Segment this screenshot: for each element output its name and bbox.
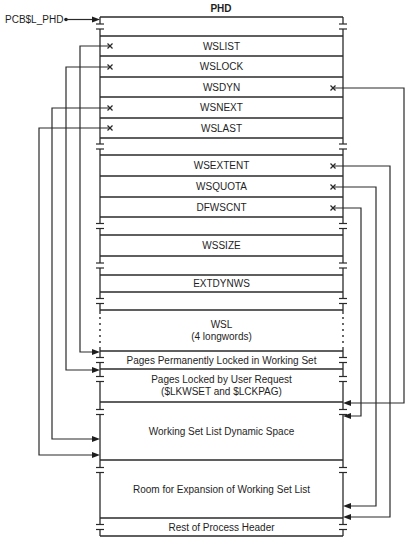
pcb-phd-label: PCB$L_PHD (5, 14, 63, 25)
phd-diagram: PHD PCB$L_PHD WSLISTWSLOCKWSDYNWSNEXTWSL… (0, 0, 410, 544)
arrowhead-icon (92, 349, 100, 355)
field-label: WSLAST (201, 123, 242, 134)
arrowhead-icon (343, 503, 351, 509)
field-wslast: WSLAST (100, 123, 343, 139)
arrowhead-icon (343, 400, 351, 406)
continuation-dot-icon (99, 335, 101, 337)
field-label: Working Set List Dynamic Space (149, 426, 295, 437)
field-label: WSL (211, 319, 233, 330)
continuation-dot-icon (99, 317, 101, 319)
field-wslist: WSLIST (100, 41, 343, 57)
field-perm-locked: Pages Permanently Locked in Working Set (100, 355, 343, 370)
arrowhead-icon (92, 367, 100, 373)
phd-diagram-canvas: PHD PCB$L_PHD WSLISTWSLOCKWSDYNWSNEXTWSL… (0, 0, 410, 544)
field-extdynws: EXTDYNWS (100, 278, 343, 292)
field-label: DFWSCNT (197, 202, 247, 213)
continuation-dot-icon (342, 323, 344, 325)
continuation-dot-icon (342, 341, 344, 343)
phd-frame (96, 17, 347, 536)
field-label: (4 longwords) (191, 331, 252, 342)
field-label: Room for Expansion of Working Set List (133, 484, 310, 495)
arrowhead-icon (92, 436, 100, 442)
field-label: WSLIST (203, 41, 240, 52)
field-rest-header: Rest of Process Header (100, 522, 343, 537)
field-label: ($LKWSET and $LCKPAG) (161, 386, 282, 397)
pointer-line (80, 46, 110, 352)
field-room-expansion: Room for Expansion of Working Set List (100, 484, 343, 519)
field-label: Rest of Process Header (168, 522, 275, 533)
field-wsl-dynamic: Working Set List Dynamic Space (100, 426, 343, 461)
pointer-line (52, 108, 110, 439)
frame-left-edge (96, 17, 104, 536)
field-label: Pages Locked by User Request (151, 374, 292, 385)
field-user-locked: Pages Locked by User Request($LKWSET and… (100, 374, 343, 402)
pointer-line (333, 208, 361, 416)
pcb-phd-pointer: PCB$L_PHD (5, 14, 100, 25)
field-wsextent: WSEXTENT (100, 160, 343, 176)
phd-fields: WSLISTWSLOCKWSDYNWSNEXTWSLASTWSEXTENTWSQ… (100, 36, 343, 536)
field-label: EXTDYNWS (193, 278, 250, 289)
pointer-wsnext (52, 106, 113, 443)
field-wsquota: WSQUOTA (100, 181, 343, 197)
frame-right-edge (339, 17, 347, 536)
field-label: WSSIZE (202, 240, 241, 251)
field-wslock: WSLOCK (100, 61, 343, 77)
arrowhead-icon (92, 17, 100, 23)
field-label: WSNEXT (200, 102, 243, 113)
field-label: WSLOCK (200, 61, 244, 72)
pointer-wslist (80, 44, 113, 356)
arrowhead-icon (92, 452, 100, 458)
field-wsl: WSL(4 longwords) (100, 319, 343, 351)
field-label: WSDYN (203, 82, 240, 93)
field-label: WSQUOTA (196, 181, 247, 192)
continuation-dot-icon (342, 335, 344, 337)
arrowhead-icon (343, 514, 351, 520)
continuation-dot-icon (342, 317, 344, 319)
field-dfwscnt: DFWSCNT (100, 202, 343, 218)
field-wsnext: WSNEXT (100, 102, 343, 118)
continuation-dot-icon (99, 323, 101, 325)
field-label: Pages Permanently Locked in Working Set (127, 355, 317, 366)
continuation-dot-icon (99, 329, 101, 331)
field-wsdyn: WSDYN (100, 82, 343, 98)
pointer-dfwscnt (331, 206, 362, 420)
field-label: WSEXTENT (194, 160, 250, 171)
continuation-dot-icon (99, 341, 101, 343)
continuation-dot-icon (342, 329, 344, 331)
diagram-title: PHD (210, 3, 231, 14)
field-wssize: WSSIZE (100, 240, 343, 256)
pointer-line (66, 67, 110, 370)
pointer-wslock (66, 65, 113, 374)
